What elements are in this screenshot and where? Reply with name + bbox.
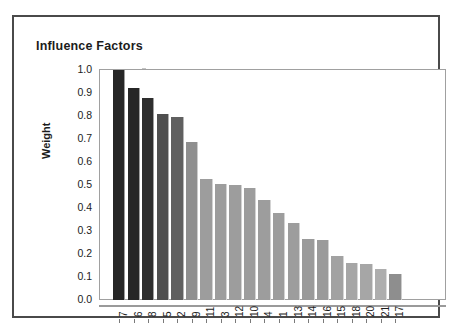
x-axis-tick-mark — [395, 319, 396, 323]
bar — [142, 98, 154, 300]
page-title: Influence Factors — [36, 39, 143, 53]
x-tick-slot: 18 — [346, 309, 361, 328]
bar-slot — [186, 70, 201, 300]
bar — [346, 263, 358, 300]
bar — [302, 239, 314, 300]
x-tick-slot: 15 — [331, 309, 346, 328]
bar — [375, 269, 387, 300]
x-axis-tick-mark — [294, 319, 295, 323]
figure-frame: Influence Factors Weight 1.00.90.80.70.6… — [12, 15, 440, 318]
x-axis-tick-mark — [235, 319, 236, 323]
y-axis-tick-label: 0.8 — [77, 109, 92, 121]
bar — [157, 114, 169, 300]
y-axis-tick-label: 0.2 — [77, 247, 92, 259]
x-axis-tick-mark — [250, 319, 251, 323]
x-tick-slot: 20 — [360, 309, 375, 328]
x-tick-slot: 16 — [317, 309, 332, 328]
bar-slot — [229, 70, 244, 300]
x-tick-slot: 9 — [186, 309, 201, 328]
bar — [186, 142, 198, 300]
bar-slot — [258, 70, 273, 300]
x-tick-slot: 1 — [273, 309, 288, 328]
bar-slot — [128, 70, 143, 300]
x-axis-tick-mark — [381, 319, 382, 323]
bar — [200, 179, 212, 300]
x-axis-tick-mark — [337, 319, 338, 323]
x-axis-tick-mark — [264, 319, 265, 323]
y-axis-title: Weight — [40, 123, 52, 159]
x-axis-tick-mark — [148, 319, 149, 323]
bar — [360, 264, 372, 300]
bar-slot — [375, 70, 390, 300]
bar-slot — [142, 70, 157, 300]
x-axis-tick-mark — [279, 319, 280, 323]
x-axis-tick-mark — [221, 319, 222, 323]
x-axis-tick-labels: 7685291131210411314161518202117 — [100, 309, 445, 328]
bar-slot — [244, 70, 259, 300]
bar-slot — [273, 70, 288, 300]
x-tick-slot: 8 — [142, 309, 157, 328]
x-axis-tick-mark — [308, 319, 309, 323]
y-axis-tick-label: 0.9 — [77, 86, 92, 98]
x-tick-slot: 11 — [200, 309, 215, 328]
x-axis-tick-mark — [134, 319, 135, 323]
y-axis-tick-label: 0.3 — [77, 224, 92, 236]
bar — [273, 213, 285, 300]
bar-slot — [215, 70, 230, 300]
bar-slot — [113, 70, 128, 300]
bar-slot — [346, 70, 361, 300]
x-tick-slot: 7 — [113, 309, 128, 328]
bar-slot — [360, 70, 375, 300]
bar — [317, 240, 329, 300]
x-axis-tick-mark — [352, 319, 353, 323]
x-axis-tick-mark — [206, 319, 207, 323]
x-tick-slot: 17 — [389, 309, 404, 328]
y-axis-tick-label: 0.0 — [77, 293, 92, 305]
bar — [288, 223, 300, 300]
x-tick-slot: 6 — [128, 309, 143, 328]
x-axis-tick-mark — [323, 319, 324, 323]
x-tick-slot: 12 — [229, 309, 244, 328]
bar-slot — [157, 70, 172, 300]
bar — [229, 185, 241, 300]
x-tick-slot: 21 — [375, 309, 390, 328]
x-tick-slot: 5 — [157, 309, 172, 328]
x-axis-tick-mark — [163, 319, 164, 323]
bar — [128, 88, 140, 300]
bar-slot — [302, 70, 317, 300]
x-tick-slot: 14 — [302, 309, 317, 328]
bar-slot — [389, 70, 404, 300]
bar-series — [100, 70, 445, 300]
bar — [171, 117, 183, 300]
bar-slot — [317, 70, 332, 300]
bar — [215, 184, 227, 300]
x-tick-slot: 2 — [171, 309, 186, 328]
bar — [113, 70, 125, 300]
bar — [389, 274, 401, 300]
y-axis-tick-labels: 1.00.90.80.70.60.50.40.30.20.10.0 — [62, 69, 92, 307]
y-axis-tick-label: 0.4 — [77, 201, 92, 213]
x-tick-slot: 4 — [258, 309, 273, 328]
bar-slot — [200, 70, 215, 300]
x-axis-tick-mark — [119, 319, 120, 323]
y-axis-tick-label: 0.7 — [77, 132, 92, 144]
x-tick-slot: 10 — [244, 309, 259, 328]
bar — [244, 188, 256, 300]
bar — [331, 256, 343, 300]
bar-slot — [288, 70, 303, 300]
x-axis-tick-label: 17 — [394, 306, 405, 317]
bar-slot — [171, 70, 186, 300]
y-axis-tick-label: 0.5 — [77, 178, 92, 190]
x-tick-slot: 3 — [215, 309, 230, 328]
x-axis-tick-mark — [177, 319, 178, 323]
x-axis-tick-mark — [366, 319, 367, 323]
bar — [258, 200, 270, 300]
y-axis-tick-label: 0.1 — [77, 270, 92, 282]
x-axis-tick-mark — [192, 319, 193, 323]
bar-slot — [331, 70, 346, 300]
y-axis-tick-label: 0.6 — [77, 155, 92, 167]
y-axis-tick-label: 1.0 — [77, 63, 92, 75]
x-tick-slot: 13 — [288, 309, 303, 328]
